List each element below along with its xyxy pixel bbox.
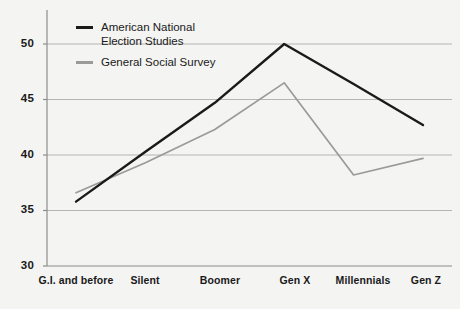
y-tick-label-45: 45: [4, 92, 34, 104]
plot-area: [0, 0, 460, 309]
legend-swatch-line-icon-secondary: [76, 61, 93, 64]
chart-legend: American National Election Studies Gener…: [76, 20, 215, 76]
y-tick-label-35: 35: [4, 203, 34, 215]
y-tick-label-30: 30: [4, 259, 34, 271]
x-tick-label-gi-and-before: G.I. and before: [36, 274, 116, 287]
legend-item-general-social-survey: General Social Survey: [76, 55, 215, 69]
legend-swatch-line-icon-primary: [76, 26, 93, 29]
x-tick-label-boomer: Boomer: [180, 274, 260, 287]
y-tick-label-50: 50: [4, 37, 34, 49]
y-tick-label-40: 40: [4, 148, 34, 160]
x-tick-label-gen-z: Gen Z: [396, 274, 456, 287]
legend-item-american-national-election-studies: American National Election Studies: [76, 20, 215, 48]
x-tick-label-silent: Silent: [105, 274, 185, 287]
line-chart: 50 45 40 35 30 G.I. and before Silent Bo…: [0, 0, 460, 309]
legend-label-american-national-election-studies: American National Election Studies: [101, 20, 195, 48]
legend-label-general-social-survey: General Social Survey: [101, 55, 215, 69]
x-tick-label-millennials: Millennials: [318, 274, 408, 287]
